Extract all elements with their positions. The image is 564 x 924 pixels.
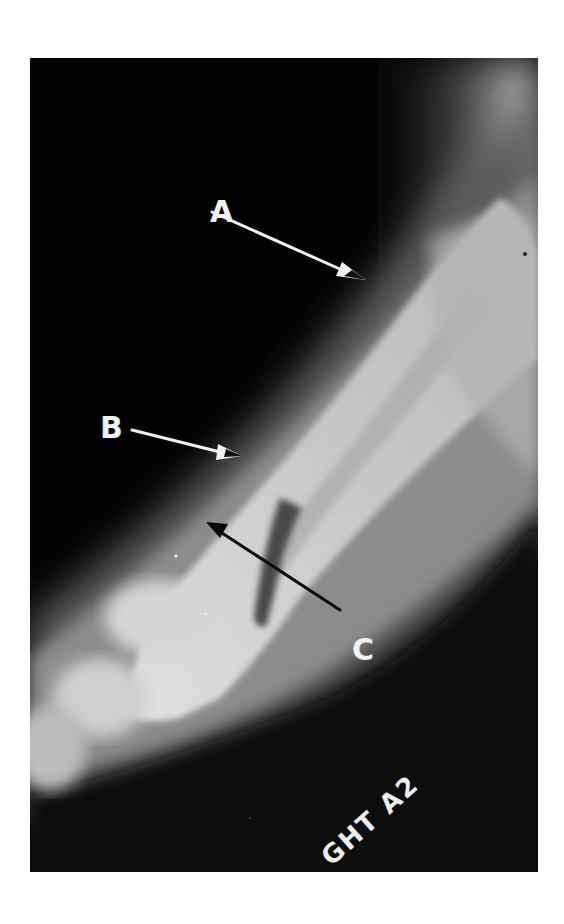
xray-figure: A B C GHT A2 xyxy=(30,58,538,872)
xray-image xyxy=(30,58,538,872)
label-b: B xyxy=(100,413,123,443)
label-a: A xyxy=(210,197,233,227)
label-c: C xyxy=(352,635,374,665)
